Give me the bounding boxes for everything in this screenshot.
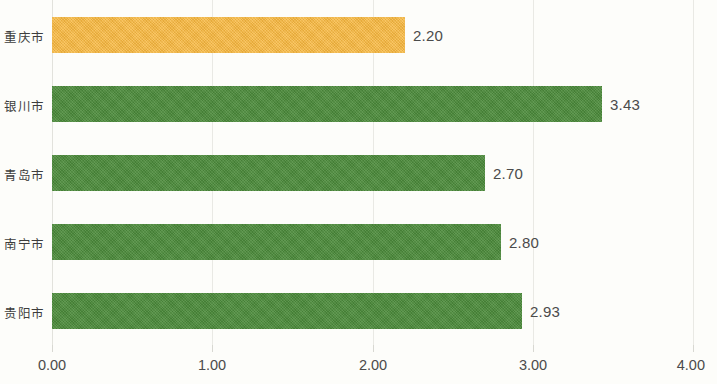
x-tick-mark	[52, 345, 53, 352]
bar-value-label: 3.43	[610, 96, 640, 113]
x-axis-tick-label: 3.00	[519, 357, 547, 373]
x-axis-tick-label: 1.00	[198, 357, 226, 373]
bar-value-label: 2.93	[530, 303, 560, 320]
bar-row: 2.93	[52, 293, 693, 329]
x-axis-tick-label: 2.00	[359, 357, 387, 373]
category-label-2: 青岛市	[4, 165, 50, 184]
bar-row: 2.20	[52, 17, 693, 53]
bar-4[interactable]	[52, 293, 522, 329]
x-tick-mark	[533, 345, 534, 352]
category-label-1: 银川市	[4, 96, 50, 115]
gridline-4.00	[693, 0, 694, 345]
bar-2[interactable]	[52, 155, 485, 191]
bar-row: 2.80	[52, 224, 693, 260]
x-tick-mark	[212, 345, 213, 352]
bar-chart: 2.203.432.702.802.93 0.001.002.003.004.0…	[0, 0, 717, 384]
bar-1[interactable]	[52, 86, 602, 122]
bar-value-label: 2.80	[509, 234, 539, 251]
bar-row: 3.43	[52, 86, 693, 122]
bar-row: 2.70	[52, 155, 693, 191]
x-axis-tick-label: 0.00	[38, 357, 66, 373]
category-label-4: 贵阳市	[4, 303, 50, 322]
category-label-3: 南宁市	[4, 234, 50, 253]
bar-3[interactable]	[52, 224, 501, 260]
x-tick-mark	[693, 345, 694, 352]
category-label-0: 重庆市	[4, 27, 50, 46]
plot-area: 2.203.432.702.802.93	[52, 0, 693, 345]
x-axis-tick-label: 4.00	[677, 357, 705, 373]
bar-0[interactable]	[52, 17, 405, 53]
x-tick-mark	[373, 345, 374, 352]
bar-value-label: 2.70	[493, 165, 523, 182]
bar-value-label: 2.20	[413, 27, 443, 44]
